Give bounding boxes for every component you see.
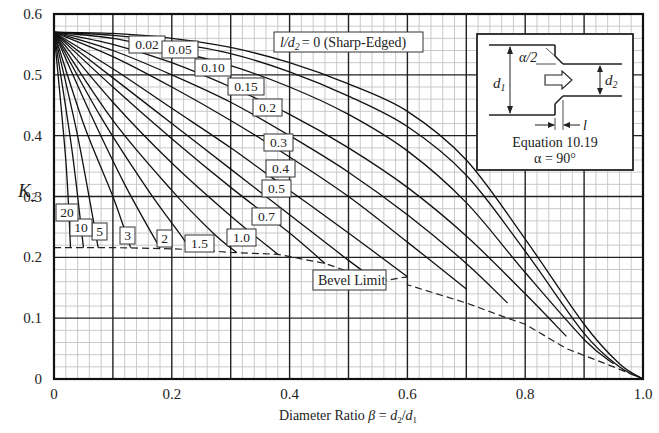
x-tick-label: 0 [50, 386, 58, 402]
y-tick-label: 0.5 [23, 67, 42, 83]
svg-text:Bevel Limit: Bevel Limit [318, 273, 385, 288]
curve-label: 0.05 [168, 42, 192, 57]
bevel-limit-label: Bevel Limit [313, 270, 386, 290]
curve-label: 3 [124, 228, 131, 243]
curve-label: 0.4 [272, 161, 289, 176]
x-axis-title: Diameter Ratio β = d2/d1 [279, 408, 417, 425]
curve-label: 0.7 [258, 209, 275, 224]
x-tick-label: 0.2 [162, 386, 181, 402]
y-tick-label: 0 [35, 371, 43, 387]
curve-label: 0.15 [234, 79, 258, 94]
curve-label: 1.0 [233, 230, 250, 245]
curve-label: 0.10 [201, 60, 225, 75]
curve-label: 20 [60, 205, 74, 220]
svg-text:α = 90°: α = 90° [534, 151, 576, 166]
x-tick-label: 0.4 [280, 386, 299, 402]
x-tick-label: 0.8 [516, 386, 535, 402]
sharp-edged-label: l/d2= 0 (Sharp-Edged) [274, 32, 423, 52]
curve-label: 5 [96, 224, 103, 239]
curve-label: 0.3 [270, 135, 287, 150]
inset-diagram: α/2 d1 d2 l Equation 10.19 α = 90° [477, 34, 633, 170]
svg-text:Equation 10.19: Equation 10.19 [512, 135, 598, 150]
svg-text:α/2: α/2 [519, 50, 537, 65]
curve-label: 0.2 [259, 100, 276, 115]
y-tick-label: 0.4 [23, 128, 42, 144]
loss-coefficient-chart: 00.20.40.60.81.000.10.20.30.40.50.6 0.02… [0, 0, 659, 433]
x-tick-label: 1.0 [634, 386, 653, 402]
y-tick-label: 0.6 [23, 6, 42, 22]
y-tick-label: 0.2 [23, 249, 42, 265]
curve-label: 0.5 [268, 181, 285, 196]
curve-label: 1.5 [191, 236, 208, 251]
x-tick-label: 0.6 [398, 386, 417, 402]
curve-label: 2 [161, 231, 168, 246]
curve-label: 0.02 [135, 37, 159, 52]
y-tick-label: 0.1 [23, 310, 42, 326]
y-axis-title: K2 [17, 180, 37, 204]
svg-text:l: l [583, 118, 587, 133]
curve-label: 10 [74, 220, 88, 235]
